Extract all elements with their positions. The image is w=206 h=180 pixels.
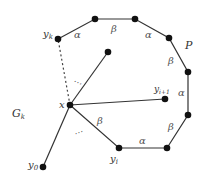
node-p1	[92, 16, 99, 23]
graph-diagram: yk x yi+1 yi y0 P Gk α β α β α β α β ⋯ ⋯	[0, 0, 206, 180]
edge-label-alpha-1: α	[74, 29, 81, 40]
label-P: P	[184, 39, 193, 52]
edge-x-yi1	[70, 99, 165, 105]
label-y0: y0	[27, 159, 39, 172]
node-yi	[116, 145, 123, 152]
edge-x-y0	[43, 105, 70, 167]
edge-label-beta-2: β	[167, 55, 174, 66]
dashed-edge-x-yk	[58, 39, 70, 105]
edge-label-alpha-4: α	[139, 135, 146, 146]
edge-label-beta-3: β	[167, 121, 174, 132]
edge-label-beta-1: β	[110, 23, 117, 34]
label-Gk: Gk	[12, 107, 25, 121]
ellipsis-lower: ⋯	[72, 127, 84, 139]
node-y0	[40, 164, 47, 171]
node-branch	[105, 49, 112, 56]
node-p5	[185, 112, 192, 119]
node-yi1	[162, 96, 169, 103]
node-p4	[185, 69, 192, 76]
node-p3	[166, 35, 173, 42]
node-yk	[55, 36, 62, 43]
label-yi1: yi+1	[153, 84, 170, 95]
edge-label-alpha-3: α	[178, 87, 185, 98]
label-yk: yk	[42, 28, 53, 41]
node-p6	[164, 145, 171, 152]
edge-label-alpha-2: α	[145, 29, 152, 40]
label-yi: yi	[109, 153, 118, 166]
ellipsis-upper: ⋯	[71, 76, 83, 89]
edge-label-beta-4: β	[96, 115, 103, 126]
label-x: x	[59, 99, 65, 110]
node-x	[67, 102, 74, 109]
node-p2	[132, 16, 139, 23]
